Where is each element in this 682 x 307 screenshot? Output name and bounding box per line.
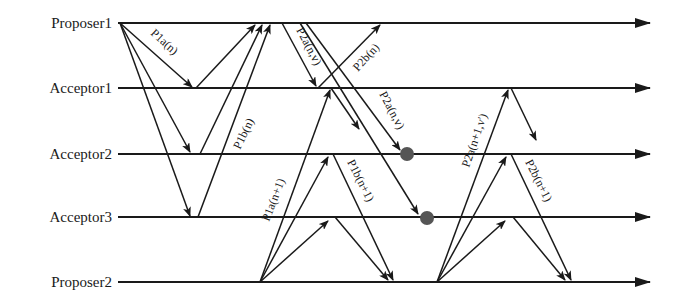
lane-label-proposer2: Proposer2 (51, 274, 112, 290)
rejected-message-dot-acceptor3 (420, 211, 434, 225)
msg-p1a-n1-to-acceptor3 (260, 221, 328, 282)
lane-label-proposer1: Proposer1 (51, 15, 112, 31)
label-p2a-n1v: P2a(n+1,v') (459, 112, 490, 169)
lane-label-acceptor2: Acceptor2 (50, 146, 112, 162)
lane-label-acceptor3: Acceptor3 (50, 209, 112, 225)
label-p1b-n1: P1b(n+1) (344, 157, 377, 204)
msg-p1b-n1-from-acceptor1-partial (331, 88, 359, 129)
msg-p1b-n-from-acceptor2 (200, 25, 262, 154)
label-p2b-n: P2b(n) (350, 40, 382, 74)
msg-p2b-n1-from-acceptor1-partial (511, 88, 536, 140)
msg-p1b-n-from-acceptor3 (198, 25, 270, 217)
label-p2b-n1: P2b(n+1) (522, 157, 555, 204)
msg-p2b-n1-from-acceptor3 (513, 217, 565, 280)
paxos-sequence-diagram: Proposer1 Acceptor1 Acceptor2 Acceptor3 … (0, 0, 682, 307)
rejected-message-dot-acceptor2 (400, 147, 414, 161)
msg-p2a-n1v-to-acceptor2 (437, 157, 506, 282)
label-p2a-nv-1: P2a(n,v) (293, 25, 325, 68)
lane-label-acceptor1: Acceptor1 (50, 80, 112, 96)
msg-p2a-n1v-to-acceptor3 (437, 221, 505, 282)
msg-p1b-n1-from-acceptor3 (335, 217, 388, 280)
msg-p2a-n1v-to-acceptor1 (437, 90, 508, 282)
msg-p1a-n-to-acceptor3 (120, 23, 190, 216)
